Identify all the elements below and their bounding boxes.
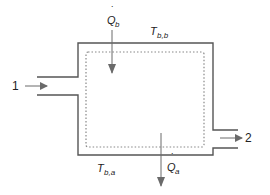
temperature-bottom-label: T b,a xyxy=(97,162,116,177)
svg-text:˙: ˙ xyxy=(111,5,114,16)
control-volume-boundary xyxy=(86,52,204,147)
control-volume-diagram: 1 2 Q ˙ b Q ˙ a T b,b T b,a xyxy=(0,0,270,195)
temperature-top-label: T b,b xyxy=(150,25,169,40)
svg-text:˙: ˙ xyxy=(171,152,174,163)
svg-text:b: b xyxy=(115,20,120,29)
system-wall xyxy=(37,43,238,155)
inlet-label: 1 xyxy=(12,79,19,93)
outlet-label: 2 xyxy=(245,131,252,145)
svg-text:a: a xyxy=(175,167,180,176)
heat-in-label: Q ˙ b xyxy=(107,5,120,29)
svg-text:b,b: b,b xyxy=(157,31,169,40)
svg-text:b,a: b,a xyxy=(104,168,116,177)
